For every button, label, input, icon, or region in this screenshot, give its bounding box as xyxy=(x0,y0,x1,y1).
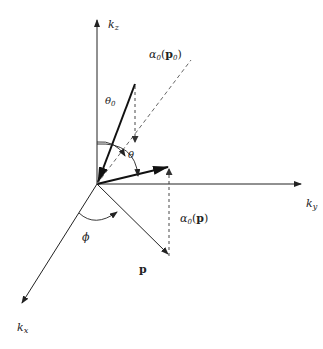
phi-label: ϕ xyxy=(82,231,90,244)
ky-label: ky xyxy=(306,197,318,211)
dashed-direction-line xyxy=(97,60,191,184)
theta0-label: θ0 xyxy=(105,95,116,108)
p0-bold-vector xyxy=(98,84,135,182)
kx-label: kx xyxy=(17,321,29,335)
kz-label: kz xyxy=(108,18,120,32)
alpha-p-label: α0(p) xyxy=(180,212,208,226)
alpha-p0-label: α0(p0) xyxy=(149,48,182,62)
theta-label: θ xyxy=(128,149,134,160)
p-label: p xyxy=(139,263,147,276)
phi-arc xyxy=(79,212,117,220)
momentum-diagram: kz ky kx θ0 θ ϕ p α0(p0) α0(p) xyxy=(0,0,323,349)
p-vector xyxy=(97,184,168,254)
